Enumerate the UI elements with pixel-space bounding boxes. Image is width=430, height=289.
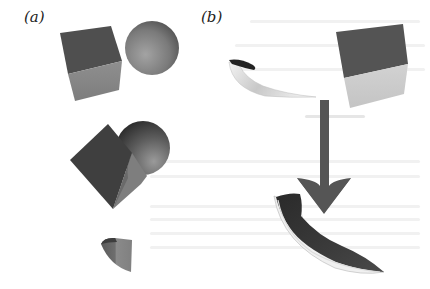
panel-label-a: (a): [24, 8, 45, 26]
down-arrow-icon: [297, 100, 351, 214]
curved-sheet: [229, 60, 316, 98]
panel-label-b: (b): [201, 8, 222, 26]
arrow-shaft: [320, 100, 329, 190]
cube: [336, 24, 408, 108]
sheet-surface: [229, 62, 316, 97]
cube-sphere-union: [70, 121, 170, 209]
wedge-shape: [101, 238, 132, 272]
figure: (a) (b): [0, 0, 430, 289]
sphere: [125, 21, 179, 75]
panel-a: [60, 21, 179, 272]
intersection-wedge: [101, 238, 132, 272]
panel-b: [229, 24, 408, 273]
cube: [60, 26, 122, 101]
scene: [0, 0, 430, 289]
